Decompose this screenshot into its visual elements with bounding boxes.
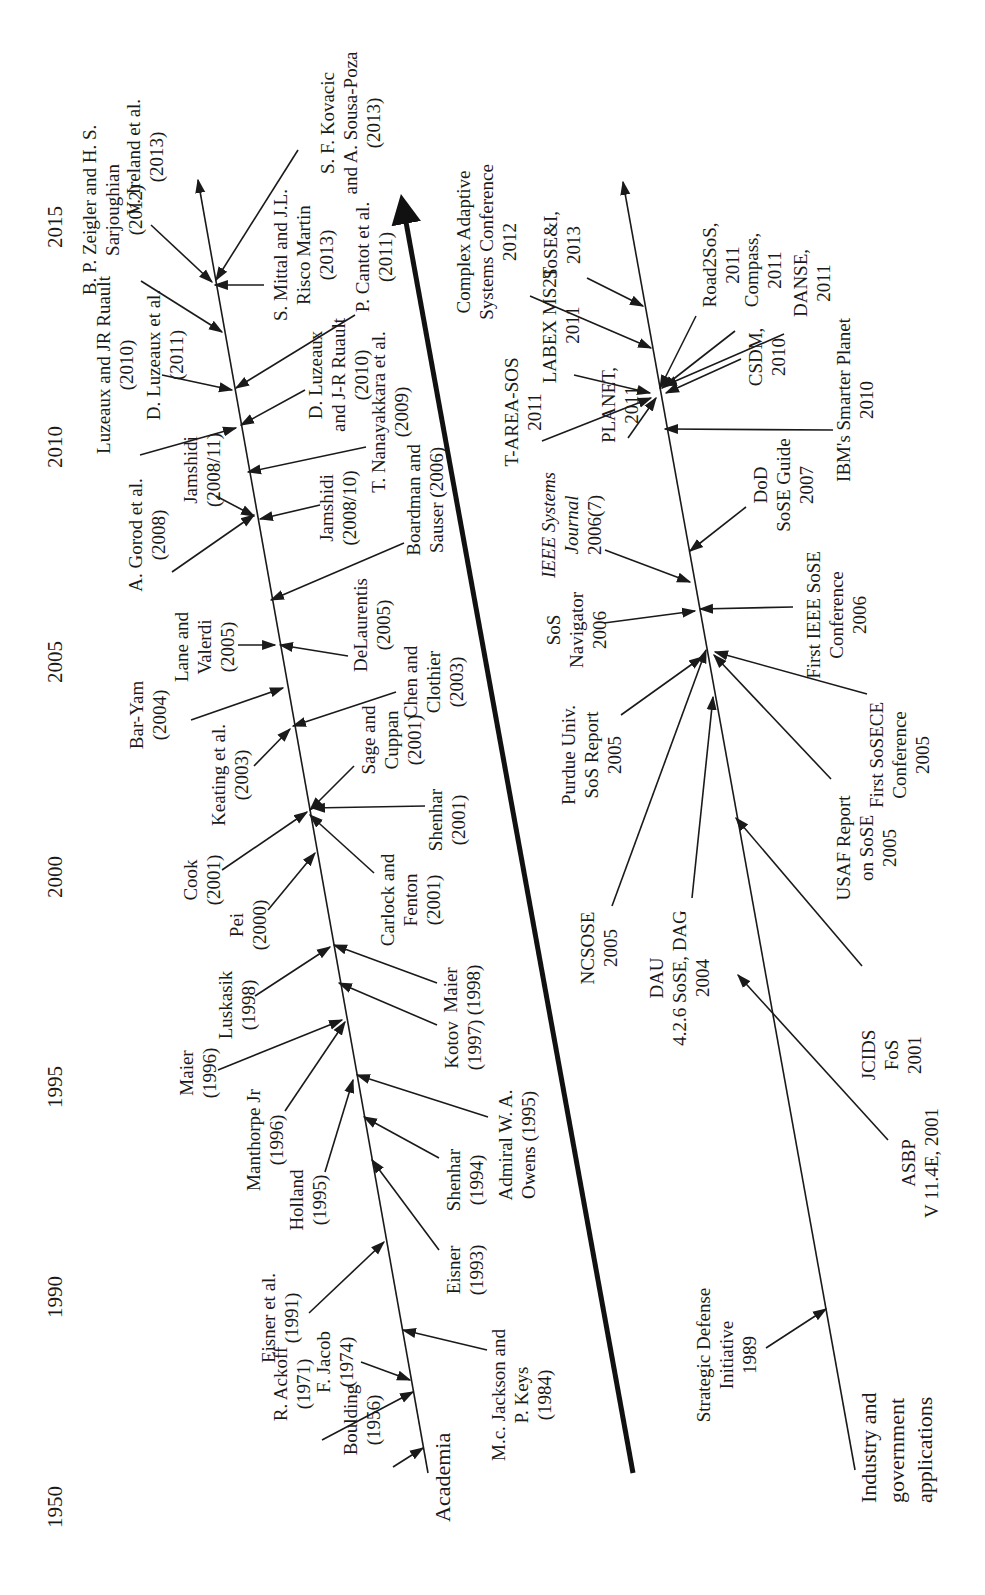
svg-text:(2013): (2013) [363,98,385,149]
label-complex-adaptive-systems: Complex AdaptiveSystems Conference2012 [453,164,520,320]
diagram-svg: 1950 1990 1995 2000 2005 2010 2015 [0,0,985,1595]
label-shenhar-2001: Shenhar(2001) [425,788,470,851]
label-planet: PLANET,2011 [598,367,642,443]
year-label: 2005 [43,641,67,683]
svg-text:(2001): (2001) [423,875,445,926]
svg-text:Holland: Holland [286,1169,307,1231]
svg-text:Industry and: Industry and [856,1392,881,1503]
svg-text:4.2.6 SoSE, DAG: 4.2.6 SoSE, DAG [669,910,690,1046]
svg-text:(1971): (1971) [293,1359,315,1410]
svg-text:2011: 2011 [524,393,545,430]
svg-text:(2000): (2000) [249,900,271,951]
svg-text:2006: 2006 [589,611,610,649]
svg-text:Boardman and: Boardman and [403,444,424,556]
label-compass: Compass,2011 [741,233,785,307]
svg-text:Boulding: Boulding [340,1384,361,1455]
svg-text:Road2SoS,: Road2SoS, [699,223,720,308]
svg-text:(2010): (2010) [116,340,138,391]
svg-text:2006(7): 2006(7) [584,495,606,555]
svg-text:(2003): (2003) [446,657,468,708]
label-manthorpe: Manthorpe Jr(1996) [243,1088,288,1191]
svg-text:IEEE Systems: IEEE Systems [538,472,559,579]
svg-text:(1996): (1996) [266,1115,288,1166]
label-sosei: SoSE&I,2013 [540,211,584,279]
label-danse: DANSE,2011 [790,249,834,317]
svg-text:Purdue Univ.: Purdue Univ. [558,705,579,805]
label-cook: Cook(2001) [180,855,225,906]
svg-text:(2001): (2001) [203,855,225,906]
svg-text:P. Keys: P. Keys [511,1366,532,1423]
svg-text:SoS Report: SoS Report [581,711,602,799]
svg-text:USAF Report: USAF Report [833,795,854,901]
svg-text:IBM's Smarter Planet: IBM's Smarter Planet [833,317,854,482]
svg-text:Jamshidi: Jamshidi [180,436,201,504]
svg-text:Systems Conference: Systems Conference [476,164,497,320]
svg-text:Kotov: Kotov [441,1021,462,1069]
svg-text:(2010): (2010) [351,350,373,401]
svg-text:Luskasik: Luskasik [215,970,236,1039]
label-sdi: Strategic DefenseInitiative1989 [693,1288,760,1423]
svg-text:1989: 1989 [739,1336,760,1374]
svg-text:DAU: DAU [646,957,667,998]
year-label: 1990 [43,1276,67,1318]
svg-text:V. Ireland et al.: V. Ireland et al. [123,99,144,215]
label-kovacic: S. F. Kovacicand A. Sousa-Poza(2013) [317,51,385,195]
industry-labels: Strategic DefenseInitiative1989 ASBPV 11… [453,164,942,1422]
svg-text:First IEEE SoSE: First IEEE SoSE [803,551,824,679]
svg-text:D. Luzeaux et al.: D. Luzeaux et al. [143,290,164,420]
svg-text:Conference: Conference [889,711,910,799]
svg-text:(2011): (2011) [166,330,188,380]
svg-text:Initiative: Initiative [716,1321,737,1390]
svg-text:(2008/10): (2008/10) [339,471,361,546]
svg-text:DoD: DoD [750,467,771,504]
label-ibm-smarter-planet: IBM's Smarter Planet2010 [833,317,877,482]
svg-text:Sauser (2006): Sauser (2006) [426,447,448,553]
svg-text:F. Jacob: F. Jacob [313,1331,334,1393]
svg-text:2010: 2010 [856,381,877,419]
svg-text:Shenhar: Shenhar [425,788,446,851]
svg-text:(2004): (2004) [149,690,171,741]
label-cantot: P. Cantot et al.(2011) [352,202,397,312]
svg-text:Cook: Cook [180,859,201,901]
svg-text:Lane and: Lane and [171,611,192,682]
label-sos-navigator: SoSNavigator2006 [543,591,610,668]
svg-text:Chen and: Chen and [400,645,421,718]
svg-text:(1998): (1998) [238,980,260,1031]
label-gorod: A. Gorod et al.(2008) [125,478,170,591]
svg-text:on SoSE: on SoSE [856,815,877,881]
label-keating: Keating et al.(2003) [208,724,253,826]
svg-text:Conference: Conference [826,571,847,659]
label-dau: DAU4.2.6 SoSE, DAG2004 [646,910,713,1046]
label-dod-sose-guide: DoDSoSE Guide2007 [750,438,817,531]
svg-text:2011: 2011 [764,251,785,288]
svg-text:Sarjoughian: Sarjoughian [102,164,123,256]
svg-text:(2009): (2009) [391,387,413,438]
label-carlock-fenton: Carlock andFenton(2001) [377,853,445,946]
svg-text:(2005): (2005) [373,600,395,651]
svg-text:A. Gorod et al.: A. Gorod et al. [125,478,146,591]
svg-text:DANSE,: DANSE, [790,249,811,317]
label-kotov: Kotov(1997) [441,1020,486,1071]
svg-text:PLANET,: PLANET, [598,367,619,443]
label-chen-clothier: Chen andClothier(2003) [400,645,468,718]
label-road2sos: Road2SoS,2011 [699,223,743,308]
svg-text:Strategic Defense: Strategic Defense [693,1288,714,1423]
svg-text:(2013): (2013) [146,132,168,183]
label-luzeaux-ruault-2010a: Luzeaux and JR Ruault(2010) [93,275,138,454]
svg-text:2007: 2007 [796,466,817,504]
svg-text:V 11.4E, 2001: V 11.4E, 2001 [921,1108,942,1218]
svg-text:CSDM,: CSDM, [745,328,766,387]
svg-text:Pei: Pei [226,913,247,937]
label-ieee-systems-journal: IEEE SystemsJournal2006(7) [538,472,606,579]
svg-text:T-AREA-SOS: T-AREA-SOS [501,357,522,466]
label-shenhar-1994: Shenhar(1994) [443,1148,488,1211]
industry-timeline-arrow [623,182,855,1470]
svg-text:Compass,: Compass, [741,233,762,307]
svg-text:2001: 2001 [904,1036,925,1074]
svg-text:2011: 2011 [562,306,583,343]
svg-text:ASBP: ASBP [898,1139,919,1187]
label-maier-1998: Maier(1998) [440,965,485,1016]
label-luskasik: Luskasik(1998) [215,970,260,1039]
svg-text:(2001): (2001) [404,715,426,766]
svg-text:Jamshidi: Jamshidi [316,474,337,542]
